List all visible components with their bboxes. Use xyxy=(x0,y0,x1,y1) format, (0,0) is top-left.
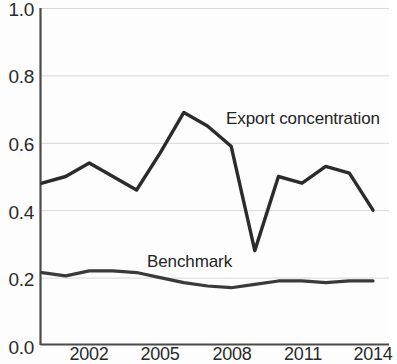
series-label-export-concentration: Export concentration xyxy=(226,110,380,127)
series-line-benchmark xyxy=(42,271,373,288)
x-tick-label-2011: 2011 xyxy=(268,345,338,363)
x-tick-label-2005: 2005 xyxy=(125,345,195,363)
y-tick-label-0-0: 0.0 xyxy=(0,338,34,357)
x-tick-label-2002: 2002 xyxy=(54,345,124,363)
series-label-benchmark: Benchmark xyxy=(147,253,232,270)
y-tick-label-0-2: 0.2 xyxy=(0,270,34,289)
y-tick-label-1-0: 1.0 xyxy=(0,0,34,19)
y-tick-label-0-4: 0.4 xyxy=(0,203,34,222)
series-line-export-concentration xyxy=(42,112,373,250)
y-tick-label-0-8: 0.8 xyxy=(0,67,34,86)
axis-lines xyxy=(41,8,390,345)
x-tick-label-2008: 2008 xyxy=(197,345,267,363)
x-tick-label-2014: 2014 xyxy=(338,345,397,363)
y-tick-label-0-6: 0.6 xyxy=(0,135,34,154)
gridlines xyxy=(41,9,389,279)
